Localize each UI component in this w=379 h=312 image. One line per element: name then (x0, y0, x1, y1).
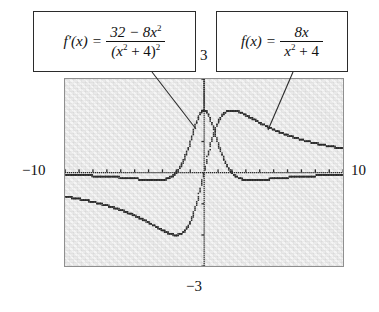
x-axis-dot (73, 172, 74, 173)
x-axis-dot (99, 172, 100, 173)
curve-dot (215, 129, 216, 130)
curve-dot (147, 179, 148, 180)
curve-dot (142, 220, 143, 221)
curve-dot (164, 231, 165, 232)
curve-dot (267, 179, 268, 180)
curve-dot (250, 179, 251, 180)
x-axis-dot (272, 172, 273, 173)
curve-dot (275, 130, 276, 131)
x-axis-dot (109, 172, 110, 173)
y-axis-dot (204, 214, 205, 215)
x-axis-tick (315, 169, 316, 172)
curve-dot (203, 109, 204, 110)
y-axis-dot (204, 255, 205, 256)
curve-dot (186, 151, 187, 152)
x-axis-dot (311, 172, 312, 173)
curve-dot (206, 161, 207, 162)
curve-dot (86, 199, 87, 200)
curve-dot (123, 210, 124, 211)
x-axis-dot (297, 172, 298, 173)
x-axis-dot (158, 172, 159, 173)
curve-dot (132, 213, 133, 214)
curve-dot (90, 201, 91, 202)
y-axis-dot (204, 132, 205, 133)
curve-dot (71, 198, 72, 199)
curve-dot (262, 124, 263, 125)
x-axis-dot (238, 172, 239, 173)
curve-dot (215, 132, 216, 133)
curve-dot (331, 146, 332, 147)
curve-dot (145, 220, 146, 221)
y-axis-dot (204, 115, 205, 116)
curve-dot (267, 127, 268, 128)
x-axis-dot (252, 172, 253, 173)
x-axis-dot (303, 172, 304, 173)
x-axis-dot (85, 172, 86, 173)
curve-dot (215, 127, 216, 128)
curve-dot (211, 141, 212, 142)
x-axis-dot (313, 172, 314, 173)
x-axis-tick (106, 169, 107, 172)
curve-dot (297, 176, 298, 177)
x-axis-dot (113, 172, 114, 173)
x-axis-tick (190, 169, 191, 172)
curve-dot (317, 142, 318, 143)
y-axis-dot (204, 117, 205, 118)
curve-dot (296, 137, 297, 138)
curve-dot (184, 156, 185, 157)
curve-dot (265, 125, 266, 126)
curve-dot (252, 179, 253, 180)
curve-dot (193, 132, 194, 133)
curve-dot (225, 112, 226, 113)
curve-dot (216, 137, 217, 138)
curve-dot (196, 204, 197, 205)
curve-dot (230, 110, 231, 111)
x-axis-dot (339, 172, 340, 173)
curve-dot (179, 166, 180, 167)
formula-f-numerator: 8x (291, 24, 313, 41)
x-axis-dot (291, 172, 292, 173)
curve-dot (307, 141, 308, 142)
curve-dot (209, 120, 210, 121)
y-axis-dot (204, 231, 205, 232)
x-axis-dot (81, 172, 82, 173)
curve-dot (112, 176, 113, 177)
curve-dot (204, 167, 205, 168)
y-axis-dot (204, 208, 205, 209)
curve-dot (317, 144, 318, 145)
curve-dot (179, 167, 180, 168)
curve-dot (182, 161, 183, 162)
curve-dot (213, 135, 214, 136)
curve-dot (203, 105, 204, 106)
plot-area (64, 78, 344, 267)
curve-dot (78, 174, 79, 175)
curve-dot (245, 114, 246, 115)
x-axis-dot (277, 172, 278, 173)
curve-dot (245, 179, 246, 180)
curve-dot (144, 220, 145, 221)
y-axis-dot (204, 146, 205, 147)
y-axis-dot (204, 113, 205, 114)
curve-dot (101, 204, 102, 205)
curve-dot (223, 112, 224, 113)
curve-dot (139, 216, 140, 217)
y-axis-dot (204, 259, 205, 260)
y-axis-dot (204, 164, 205, 165)
curve-dot (203, 79, 204, 80)
curve-dot (203, 85, 204, 86)
x-axis-dot (182, 172, 183, 173)
x-axis-dot (244, 172, 245, 173)
curve-dot (155, 226, 156, 227)
curve-dot (235, 174, 236, 175)
curve-dot (147, 221, 148, 222)
x-axis-dot (327, 172, 328, 173)
curve-dot (162, 179, 163, 180)
curve-dot (174, 235, 175, 236)
curve-dot (157, 226, 158, 227)
curve-dot (137, 178, 138, 179)
curve-dot (86, 174, 87, 175)
y-axis-dot (204, 184, 205, 185)
curve-dot (218, 119, 219, 120)
formula-f-lhs: f(x) (241, 34, 262, 49)
curve-dot (309, 141, 310, 142)
